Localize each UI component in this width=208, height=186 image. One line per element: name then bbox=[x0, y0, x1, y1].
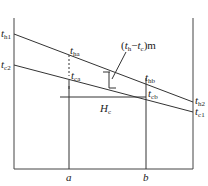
label-mean-temp-diff: (th−tc)m bbox=[121, 39, 156, 53]
mean-diff-leader bbox=[112, 52, 126, 79]
label-a: a bbox=[66, 171, 72, 183]
label-h-c: Hc bbox=[99, 102, 111, 116]
hot-fluid-line bbox=[14, 34, 193, 102]
label-t-c2: tc2 bbox=[1, 58, 11, 72]
label-t-h1: th1 bbox=[1, 27, 12, 41]
label-b: b bbox=[143, 171, 149, 183]
label-t-ha: tha bbox=[70, 44, 81, 58]
label-t-ca: tca bbox=[71, 69, 81, 83]
label-t-hb: thb bbox=[145, 71, 156, 85]
diagram-canvas: th1 tc2 tha tca thb tcb th2 tc1 (th−tc)m… bbox=[0, 0, 208, 186]
diagram-svg: th1 tc2 tha tca thb tcb th2 tc1 (th−tc)m… bbox=[0, 0, 208, 186]
label-t-cb: tcb bbox=[148, 87, 158, 101]
